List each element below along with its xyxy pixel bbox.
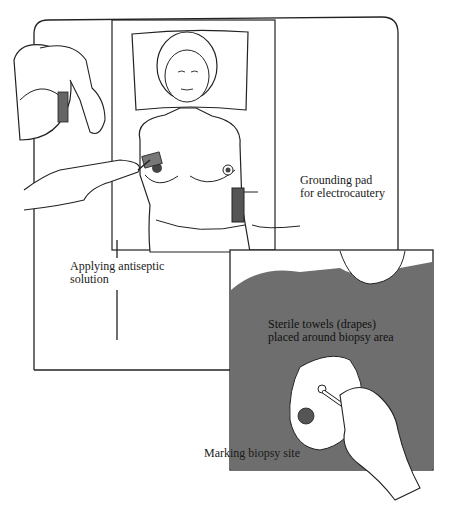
label-grounding-pad: Grounding pad for electrocautery [300,174,385,200]
label-antiseptic: Applying antiseptic solution [70,260,164,286]
biopsy-prep-illustration [0,0,449,514]
inset-panel [230,250,433,500]
patient-torso [139,108,250,252]
grounding-pad [232,188,244,222]
label-marking-biopsy: Marking biopsy site [204,447,300,460]
label-sterile-towels: Sterile towels (drapes) placed around bi… [268,318,394,344]
clinician-arm [24,160,140,210]
